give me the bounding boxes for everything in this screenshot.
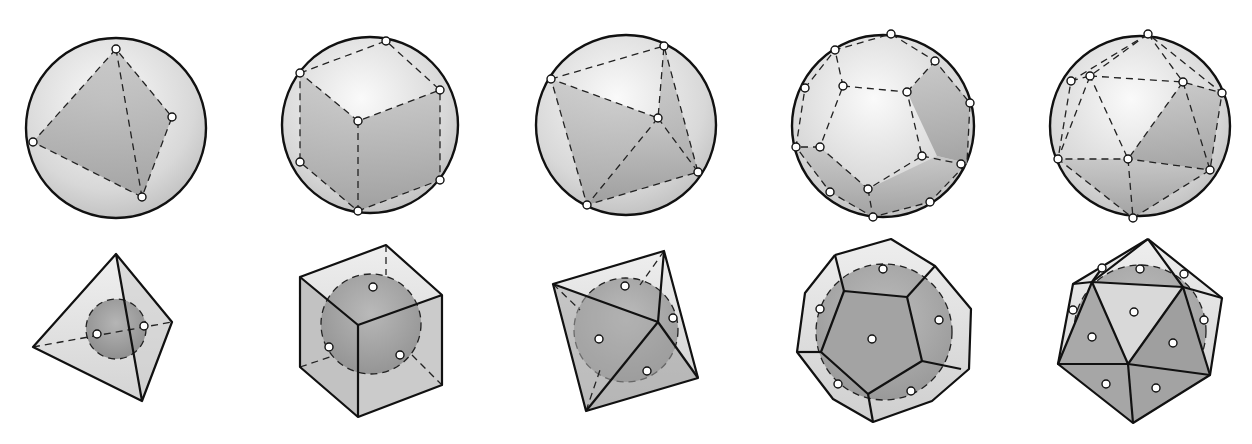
vertex-point <box>112 45 120 53</box>
tangent-point <box>1069 306 1077 314</box>
dodecahedron-circumscribed <box>792 30 974 221</box>
vertex-point <box>694 168 702 176</box>
tetrahedron-circumscribed <box>26 38 206 218</box>
vertex-point <box>354 117 362 125</box>
tangent-point <box>669 314 677 322</box>
tangent-point <box>1130 308 1138 316</box>
vertex-point <box>547 75 555 83</box>
vertex-point <box>29 138 37 146</box>
tangent-point <box>325 343 333 351</box>
octahedron-inscribed <box>553 251 698 411</box>
vertex-point <box>583 201 591 209</box>
tangent-point <box>868 335 876 343</box>
tangent-point <box>935 316 943 324</box>
icosahedron-inscribed <box>1058 239 1222 423</box>
tangent-point <box>816 305 824 313</box>
tangent-point <box>369 283 377 291</box>
tangent-point <box>1088 333 1096 341</box>
cube-circumscribed <box>282 37 458 215</box>
tangent-point <box>1098 264 1106 272</box>
tangent-point <box>1136 265 1144 273</box>
tangent-point <box>879 265 887 273</box>
vertex-point <box>296 158 304 166</box>
vertex-point <box>654 114 662 122</box>
tangent-point <box>834 380 842 388</box>
platonic-solids-diagram <box>0 0 1252 444</box>
tangent-point <box>595 335 603 343</box>
vertex-point <box>436 86 444 94</box>
vertex-point <box>354 207 362 215</box>
tangent-point <box>907 387 915 395</box>
tangent-point <box>1102 380 1110 388</box>
vertex-point <box>382 37 390 45</box>
icosahedron-circumscribed <box>1050 30 1230 222</box>
cube-inscribed <box>300 245 442 417</box>
vertex-point <box>296 69 304 77</box>
tangent-point <box>621 282 629 290</box>
tangent-point <box>93 330 101 338</box>
tetrahedron-inscribed <box>33 254 172 401</box>
tangent-point <box>1169 339 1177 347</box>
tangent-point <box>140 322 148 330</box>
dodecahedron-inscribed <box>797 239 971 422</box>
tangent-point <box>1152 384 1160 392</box>
vertex-point <box>138 193 146 201</box>
octahedron-circumscribed <box>536 35 716 215</box>
tangent-point <box>1200 316 1208 324</box>
vertex-point <box>660 42 668 50</box>
inscribed-sphere <box>86 299 146 359</box>
tangent-point <box>396 351 404 359</box>
vertex-point <box>168 113 176 121</box>
tangent-point <box>1180 270 1188 278</box>
tangent-point <box>643 367 651 375</box>
vertex-point <box>436 176 444 184</box>
